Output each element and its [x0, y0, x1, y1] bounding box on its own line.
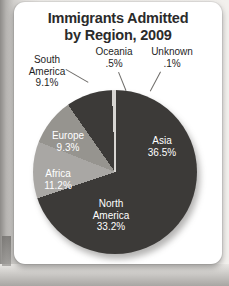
leader-line-oceania [118, 72, 126, 91]
slice-label-europe-value: 9.3% [40, 142, 96, 154]
slice-label-unknown: Unknown .1% [144, 46, 200, 69]
leader-line-unknown [150, 72, 161, 92]
slice-divider-top [114, 90, 116, 172]
slice-label-africa: Africa 11.2% [30, 168, 86, 191]
slice-label-north-america: North America 33.2% [76, 198, 146, 233]
chart-title: Immigrants Admitted by Region, 2009 [14, 10, 222, 44]
chart-title-line-1: Immigrants Admitted [14, 10, 222, 27]
slice-label-asia: Asia 36.5% [133, 135, 191, 158]
slice-label-unknown-name: Unknown [144, 46, 200, 58]
slice-label-south-america-name-1: South [16, 54, 78, 66]
chart-title-line-2: by Region, 2009 [14, 27, 222, 44]
slice-label-oceania-name: Oceania [88, 46, 140, 58]
slice-label-africa-name: Africa [30, 168, 86, 180]
page-edge-mark [2, 236, 11, 266]
slice-label-south-america-value: 9.1% [16, 77, 78, 89]
slice-label-africa-value: 11.2% [30, 180, 86, 192]
slice-label-asia-value: 36.5% [133, 147, 191, 159]
slice-label-north-america-value: 33.2% [76, 221, 146, 233]
slice-label-south-america: South America 9.1% [16, 54, 78, 89]
chart-card: Immigrants Admitted by Region, 2009 Ocea… [14, 2, 222, 264]
slice-label-oceania-value: .5% [88, 58, 140, 70]
page-backdrop-bottom [0, 264, 229, 286]
slice-label-unknown-value: .1% [144, 58, 200, 70]
slice-label-asia-name: Asia [133, 135, 191, 147]
slice-label-north-america-name-2: America [76, 210, 146, 222]
slice-label-south-america-name-2: America [16, 66, 78, 78]
slice-label-europe: Europe 9.3% [40, 130, 96, 153]
slice-label-oceania: Oceania .5% [88, 46, 140, 69]
slice-label-north-america-name-1: North [76, 198, 146, 210]
slice-label-europe-name: Europe [40, 130, 96, 142]
pie-chart-screenshot: Immigrants Admitted by Region, 2009 Ocea… [0, 0, 229, 286]
